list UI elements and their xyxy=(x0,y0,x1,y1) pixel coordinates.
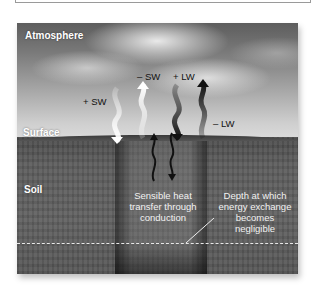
plus-lw-arrow-icon xyxy=(171,85,183,141)
plus-sw-label: + SW xyxy=(83,96,107,107)
surface-label: Surface xyxy=(23,127,60,138)
conduction-down-arrow-icon xyxy=(168,133,176,181)
top-frame-border xyxy=(15,0,311,3)
depth-note-line3: becomes xyxy=(213,212,297,223)
minus-sw-label: – SW xyxy=(137,71,160,82)
minus-sw-arrow-icon xyxy=(137,81,149,138)
plus-lw-label: + LW xyxy=(173,71,195,82)
conduction-caption: Sensible heat transfer through conductio… xyxy=(123,190,203,223)
depth-note-line1: Depth at which xyxy=(213,190,297,201)
minus-lw-arrow-icon xyxy=(197,79,209,138)
flux-arrows xyxy=(17,23,298,274)
diagram-panel: Atmosphere Surface Soil + SW – SW + LW –… xyxy=(17,23,298,274)
conduction-caption-line2: transfer through xyxy=(123,201,203,212)
soil-label: Soil xyxy=(24,184,42,195)
depth-note-line4: negligible xyxy=(213,223,297,234)
depth-note-line2: energy exchange xyxy=(213,201,297,212)
conduction-caption-line3: conduction xyxy=(123,212,203,223)
conduction-caption-line1: Sensible heat xyxy=(123,190,203,201)
plus-sw-arrow-icon xyxy=(111,88,123,144)
conduction-up-arrow-icon xyxy=(150,133,158,181)
atmosphere-label: Atmosphere xyxy=(25,30,83,41)
depth-note: Depth at which energy exchange becomes n… xyxy=(213,190,297,234)
minus-lw-label: – LW xyxy=(213,118,234,129)
